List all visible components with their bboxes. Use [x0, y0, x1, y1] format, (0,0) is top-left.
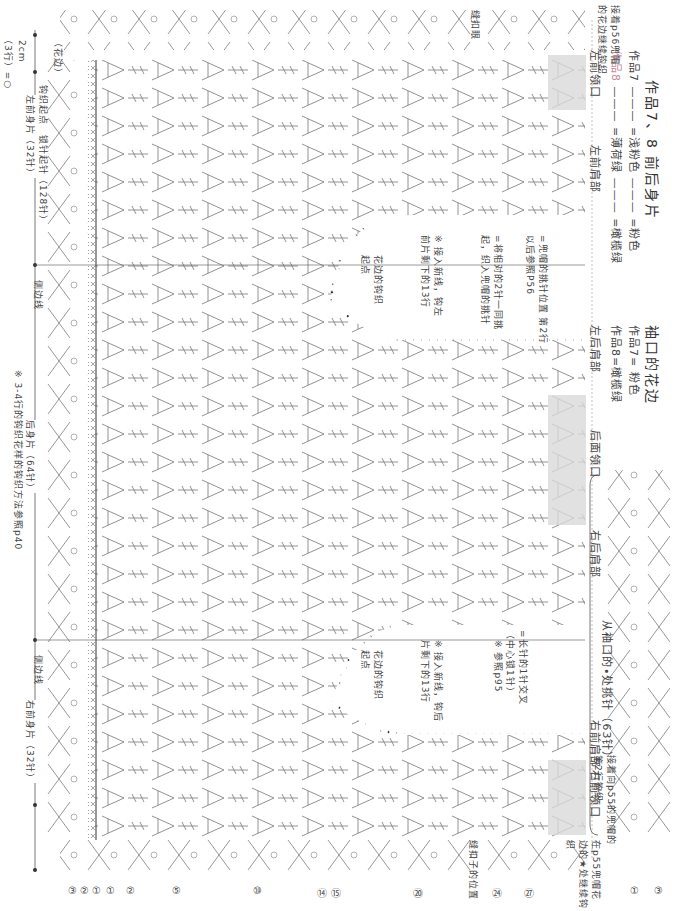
shade-back-neck	[548, 395, 586, 525]
chart-title: 作品7、8 前后身片	[643, 80, 663, 220]
work7-label: 作品7 ——— =浅粉色 ——— =粉色	[627, 50, 643, 252]
hood-note-right: 接着向p55的兜帽的第2行钩织	[592, 755, 618, 850]
row-num: ⑭	[317, 885, 327, 900]
back-new-yarn-note: ※ 接入新线，钩后片剩下的13行	[419, 640, 445, 725]
bottom-edging	[60, 840, 585, 870]
crochet-chart	[0, 0, 680, 911]
row-num: ⑳	[413, 885, 423, 900]
border-label: （花边）	[52, 38, 65, 78]
marker-back-neck: 后面领口	[588, 430, 604, 478]
row-num: ㉗	[524, 885, 534, 900]
side-line-label-1: 侧边线	[32, 280, 45, 310]
row-num: ③	[654, 885, 663, 896]
see-p95-note: ※ 参照p95	[492, 640, 505, 693]
shade-right-neck	[548, 760, 586, 835]
marker-left-front-neck: 左前领口	[588, 50, 604, 98]
border-start-right: 花边的钩织起点	[359, 650, 385, 700]
pattern-note: ※ 3-4行的钩织花样的钩织方法参照p40	[12, 370, 25, 550]
marker-left-front-shoulder: 左前肩部	[588, 145, 604, 193]
top-edging	[60, 10, 585, 50]
row-num: ②	[126, 885, 135, 896]
legend-hood-pickup: =兜帽的挑针位置 第2行以后参照P56	[524, 235, 550, 345]
marker-left-back-shoulder: 左后肩部	[588, 325, 604, 373]
left-new-yarn-note: ※ 接入新线，钩左前片剩下的13行	[419, 235, 445, 325]
left-front-label: 左前身片（32针）	[24, 95, 37, 178]
row-num: ⑤	[172, 885, 181, 896]
cuff-title: 袖口的花边	[643, 325, 663, 405]
work8-color-2: =橄榄绿	[609, 218, 622, 264]
cross-stitch-legend: =长针的1针交叉（中心锁1针）	[504, 630, 530, 720]
cuff-work8: 作品8=橄榄绿	[609, 325, 625, 403]
back-label: 后身片（64针）	[24, 420, 37, 493]
cuff-work7: 作品7= 粉色	[627, 325, 643, 396]
right-front-label: 右前身片（32针）	[24, 700, 37, 783]
row-num: ⑩	[253, 885, 262, 896]
marker-right-back-shoulder: 右后肩部	[588, 530, 604, 578]
legend-pair-pickup: =将相对的2针一同挑起，织入兜帽的挑针	[479, 235, 505, 345]
chain-start-label: 锁针起针（128针）	[37, 135, 50, 225]
row-num: ②	[80, 885, 89, 896]
border-start-left: 花边的钩织起点	[359, 255, 385, 305]
side-line-label-2: 侧边线	[32, 655, 45, 685]
work7-color-1: =浅粉色	[627, 127, 640, 173]
row-num: ①	[106, 885, 115, 896]
scale-rows-label: （3行）=○	[2, 35, 15, 89]
row-num: ⑮	[331, 885, 341, 900]
start-point-label: 钩织起点	[37, 85, 50, 125]
work7-name: 作品7	[627, 50, 640, 82]
work8-label: 作品8 ——— =薄荷绿 ——— =橄榄绿	[609, 50, 625, 264]
row-num: ㉔	[492, 885, 502, 900]
shade-left-neck	[548, 55, 586, 110]
scale-label: 2cm	[17, 40, 27, 62]
row-num: ①	[92, 885, 101, 896]
row-numbers: ③ ② ① ① ② ⑤ ⑩ ⑭ ⑮ ⑳ ㉔ ㉗ ① ③	[0, 885, 680, 905]
buttonhole-label: 缝扣眼	[469, 10, 482, 40]
foundation-row	[88, 60, 96, 840]
row-num: ①	[630, 885, 639, 896]
row-num: ③	[68, 885, 77, 896]
work8-color-1: =薄荷绿	[609, 127, 622, 173]
work7-color-2: =粉色	[627, 218, 640, 252]
